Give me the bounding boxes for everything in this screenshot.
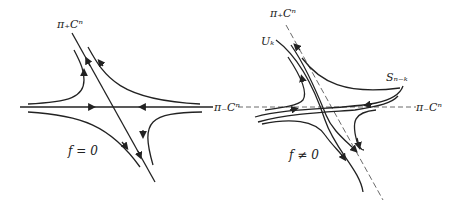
unstable-axis-dashed [286,25,383,200]
right-panel [238,25,416,200]
left-caption: f = 0 [68,144,98,158]
unstable-manifold-label: Uₖ [261,36,274,47]
left-panel [20,33,213,182]
trajectory-lower-right [148,112,202,165]
trajectory-lower-left [28,112,140,167]
stable-manifold-label: Sₙ₋ₖ [386,72,408,83]
trajectory-upper-right [88,47,200,104]
right-caption: f ≠ 0 [289,148,319,162]
left-stable-axis-label: π₋Cⁿ [214,102,240,113]
trajectory-upper-left [28,50,84,104]
right-stable-axis-label: π₋Cⁿ [416,102,442,113]
trajectory-lower-right [354,110,376,150]
right-unstable-axis-label: π₊Cⁿ [270,8,296,19]
left-unstable-axis-label: π₊Cⁿ [57,19,83,30]
